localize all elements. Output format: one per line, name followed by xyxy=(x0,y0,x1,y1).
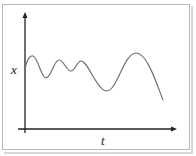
signal-curve xyxy=(25,53,163,100)
x-axis-arrow-icon xyxy=(171,127,177,132)
diagram-canvas xyxy=(0,0,196,156)
y-axis xyxy=(23,12,28,133)
x-axis-label: t xyxy=(101,133,105,149)
x-axis xyxy=(18,127,177,132)
y-axis-label: x xyxy=(11,62,17,78)
y-axis-arrow-icon xyxy=(23,12,28,18)
